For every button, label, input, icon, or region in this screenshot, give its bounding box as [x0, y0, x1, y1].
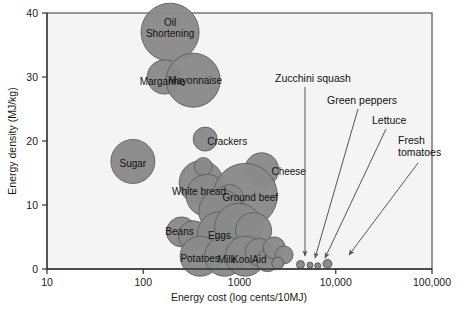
- bubble-label: Ground beef: [223, 192, 279, 203]
- bubble-label: Mayonnaise: [168, 75, 222, 86]
- y-tick-label: 30: [26, 71, 38, 83]
- bubble-label: KoolAid: [232, 254, 266, 265]
- bubble-label: Oil: [164, 17, 176, 28]
- y-tick-label: 40: [26, 7, 38, 19]
- data-bubble: [315, 263, 321, 269]
- bubble-label: Eggs: [208, 230, 231, 241]
- data-bubble: [307, 262, 313, 268]
- x-axis-title: Energy cost (log cents/10MJ): [171, 291, 307, 303]
- annotation-label: Fresh: [398, 134, 425, 146]
- annotation-label: Green peppers: [327, 94, 397, 106]
- annotation-label: Zucchini squash: [275, 72, 351, 84]
- bubble-label: Crackers: [207, 136, 247, 147]
- data-bubble: [194, 158, 212, 176]
- data-bubble: [296, 261, 304, 269]
- data-bubble: [272, 257, 284, 269]
- x-tick-label: 10: [41, 276, 53, 288]
- y-axis-ticks: 010203040: [26, 7, 47, 275]
- bubble-label: Potatoes: [180, 253, 219, 264]
- bubble-label: Sugar: [120, 158, 147, 169]
- y-tick-label: 10: [26, 199, 38, 211]
- chart-figure: 10100100010,000100,000 010203040 OilShor…: [0, 0, 473, 316]
- bubble-label: Shortening: [146, 28, 194, 39]
- annotation-label: Lettuce: [372, 114, 407, 126]
- annotation-label: tomatoes: [398, 146, 441, 158]
- data-bubble: [323, 259, 332, 268]
- bubble-label: Beans: [165, 226, 193, 237]
- bubble-label: Cheese: [271, 166, 306, 177]
- y-tick-label: 0: [32, 263, 38, 275]
- bubble-chart-canvas: 10100100010,000100,000 010203040 OilShor…: [0, 0, 473, 316]
- y-axis-title: Energy density (MJ/kg): [6, 87, 18, 194]
- x-tick-label: 100: [134, 276, 152, 288]
- y-tick-label: 20: [26, 135, 38, 147]
- x-tick-label: 100,000: [413, 276, 451, 288]
- bubble-label: White bread: [172, 186, 226, 197]
- x-tick-label: 1000: [228, 276, 252, 288]
- x-tick-label: 10,000: [320, 276, 352, 288]
